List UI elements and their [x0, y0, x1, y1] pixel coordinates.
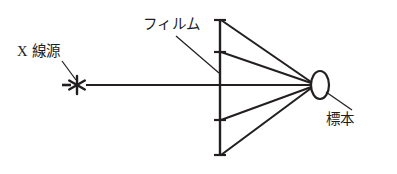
projection-ray-1 — [221, 20, 314, 84]
leader-line-film — [176, 36, 219, 73]
projection-ray-4 — [221, 86, 314, 155]
label-specimen: 標本 — [326, 112, 355, 127]
projection-ray-2 — [221, 52, 314, 84]
label-film: フィルム — [143, 17, 200, 32]
projection-ray-3 — [221, 86, 314, 120]
leader-line-specimen — [326, 92, 352, 110]
label-xray-source: X 線源 — [17, 44, 60, 59]
specimen-ellipse — [311, 71, 329, 99]
figure-container: X 線源 フィルム 標本 — [0, 0, 397, 174]
xray-source-star-icon — [69, 76, 85, 94]
leader-line-source — [62, 61, 76, 80]
